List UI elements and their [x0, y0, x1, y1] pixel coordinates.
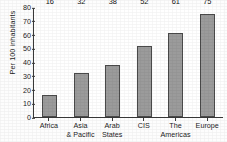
- bar-value-label: 75: [203, 0, 211, 8]
- y-tick-label: 0: [1, 114, 34, 121]
- x-axis-category-label: ArabStates: [96, 121, 128, 139]
- x-axis-labels: AfricaAsia& PacificArabStatesCISTheAmeri…: [33, 121, 223, 139]
- x-axis-category-label: Africa: [33, 121, 65, 139]
- x-axis-category-label: TheAmericas: [160, 121, 192, 139]
- bar-slot: 61: [160, 8, 192, 117]
- x-label-line: CIS: [128, 121, 160, 130]
- bar-value-label: 52: [140, 0, 148, 8]
- x-label-line: Africa: [33, 121, 65, 130]
- bar: 75: [200, 14, 215, 117]
- y-tick-label: 10: [1, 101, 34, 108]
- y-tick-label: 70: [1, 18, 34, 25]
- bar-slot: 52: [129, 8, 161, 117]
- x-label-line: States: [96, 130, 128, 139]
- bar: 16: [42, 95, 57, 117]
- y-tick-label: 60: [1, 32, 34, 39]
- x-label-line: & Pacific: [65, 130, 97, 139]
- y-axis-title: Per 100 inhabitants: [8, 5, 17, 81]
- x-axis-category-label: CIS: [128, 121, 160, 139]
- bar-slot: 38: [97, 8, 129, 117]
- y-tick-label: 30: [1, 73, 34, 80]
- bar-value-label: 32: [77, 0, 85, 8]
- x-label-line: The: [160, 121, 192, 130]
- bar-value-label: 38: [109, 0, 117, 8]
- x-label-line: Americas: [160, 130, 192, 139]
- x-axis-category-label: Asia& Pacific: [65, 121, 97, 139]
- plot-area: 80706050403020100 163238526175: [33, 8, 223, 118]
- bar: 38: [105, 65, 120, 117]
- bar-slot: 32: [66, 8, 98, 117]
- bar: 32: [74, 73, 89, 117]
- x-label-line: Arab: [96, 121, 128, 130]
- bar-series: 163238526175: [34, 8, 223, 117]
- bar-chart: Per 100 inhabitants 80706050403020100 16…: [0, 0, 227, 142]
- bar-slot: 75: [192, 8, 224, 117]
- bar: 61: [168, 33, 183, 117]
- y-tick-label: 80: [1, 4, 34, 11]
- x-label-line: Asia: [65, 121, 97, 130]
- y-tick-label: 20: [1, 87, 34, 94]
- bar-value-label: 16: [46, 0, 54, 8]
- bar-value-label: 61: [172, 0, 180, 8]
- x-axis-category-label: Europe: [191, 121, 223, 139]
- x-label-line: Europe: [191, 121, 223, 130]
- y-tick-label: 40: [1, 59, 34, 66]
- bar-slot: 16: [34, 8, 66, 117]
- y-tick-label: 50: [1, 46, 34, 53]
- bar: 52: [137, 46, 152, 118]
